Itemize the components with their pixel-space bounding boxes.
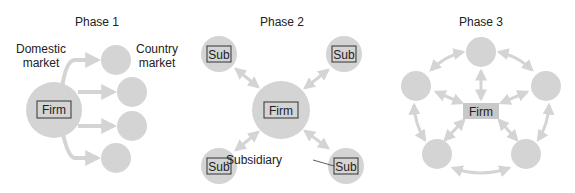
phase-1: Phase 1 Domestic market Country market F… (16, 15, 178, 173)
country-market-label: Country (136, 42, 178, 56)
country-market-node (101, 45, 131, 75)
sub-label: Sub (335, 160, 357, 174)
phase-3-title: Phase 3 (459, 15, 503, 29)
network-node (511, 139, 541, 169)
sub-label: Sub (208, 48, 230, 62)
phase-2-title: Phase 2 (260, 15, 304, 29)
country-market-node (101, 143, 131, 173)
internationalization-phases-diagram: Phase 1 Domestic market Country market F… (0, 0, 575, 193)
phase-2: Phase 2 Firm Sub Sub Sub Sub Subsidiary (201, 15, 364, 184)
firm-label: Firm (42, 103, 66, 117)
country-market-node (117, 77, 147, 107)
phase-3: Phase 3 Firm (401, 15, 561, 173)
network-node (401, 71, 431, 101)
country-market-node (117, 111, 147, 141)
firm-label: Firm (469, 105, 493, 119)
network-node (466, 37, 496, 67)
subsidiary-label: Subsidiary (226, 153, 282, 167)
domestic-market-label-2: market (23, 56, 60, 70)
network-node (531, 71, 561, 101)
phase-1-title: Phase 1 (75, 15, 119, 29)
country-market-label-2: market (139, 56, 176, 70)
network-node (422, 139, 452, 169)
domestic-market-label: Domestic (16, 42, 66, 56)
sub-label: Sub (333, 48, 355, 62)
firm-label: Firm (269, 104, 293, 118)
